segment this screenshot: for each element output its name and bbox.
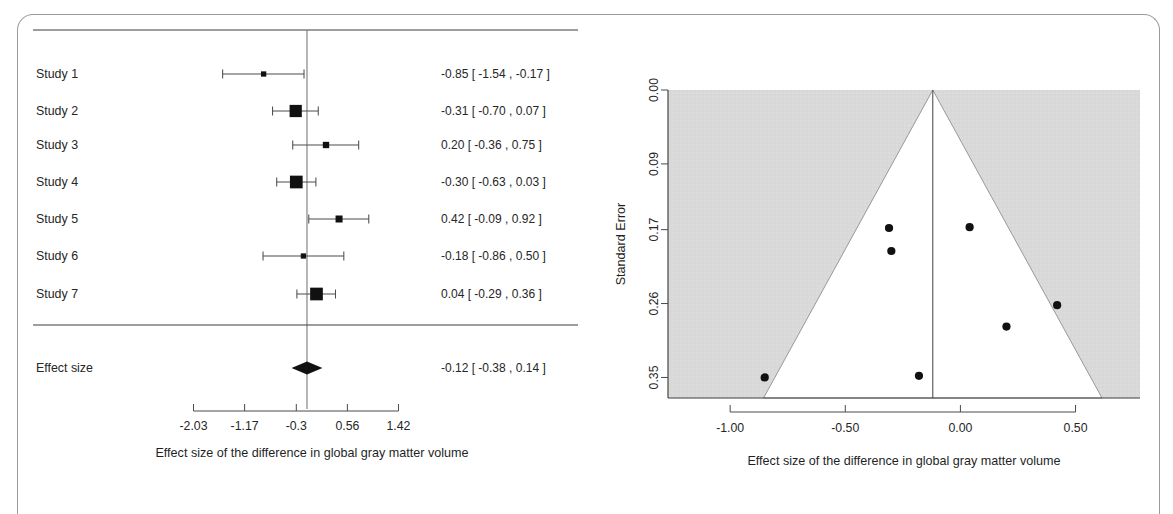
forest-row: Study 6-0.18 [ -0.86 , 0.50 ] [36,249,546,263]
forest-x-tick-label: -0.3 [286,419,307,433]
effect-size-marker [290,105,302,117]
funnel-y-tick-label: 0.17 [647,218,661,242]
effect-estimate-text: -0.85 [ -1.54 , -0.17 ] [441,67,550,81]
funnel-data-point [885,224,893,232]
effect-estimate-text: 0.04 [ -0.29 , 0.36 ] [441,287,542,301]
effect-size-marker [261,71,266,76]
forest-plot: Study 1-0.85 [ -1.54 , -0.17 ]Study 2-0.… [0,0,600,489]
funnel-y-tick-label: 0.00 [647,78,661,102]
effect-size-marker [323,142,329,148]
forest-row: Study 70.04 [ -0.29 , 0.36 ] [36,287,542,301]
forest-summary-row: Effect size-0.12 [ -0.38 , 0.14 ] [36,361,546,375]
effect-estimate-text: -0.18 [ -0.86 , 0.50 ] [441,249,546,263]
study-label: Study 7 [36,287,78,301]
forest-x-axis-title: Effect size of the difference in global … [155,446,468,460]
funnel-data-point [761,373,769,381]
funnel-x-axis-title: Effect size of the difference in global … [747,454,1060,468]
forest-row: Study 1-0.85 [ -1.54 , -0.17 ] [36,67,550,81]
forest-row: Study 30.20 [ -0.36 , 0.75 ] [36,138,542,152]
forest-x-tick-label: -2.03 [180,419,208,433]
funnel-plot-panel: 0.000.090.170.260.35Standard Error-1.00-… [600,0,1173,489]
funnel-plot: 0.000.090.170.260.35Standard Error-1.00-… [600,0,1173,489]
study-label: Study 6 [36,249,78,263]
funnel-data-point [915,372,923,380]
funnel-y-tick-label: 0.26 [647,291,661,315]
funnel-x-tick-label: 0.00 [948,421,972,435]
forest-x-tick-label: 0.56 [335,419,359,433]
effect-size-marker [310,288,323,301]
summary-label: Effect size [36,361,93,375]
effect-estimate-text: 0.20 [ -0.36 , 0.75 ] [441,138,542,152]
funnel-y-tick-label: 0.35 [647,365,661,389]
forest-x-tick-label: -1.17 [231,419,259,433]
effect-size-marker [290,176,303,189]
effect-size-marker [301,253,306,258]
study-label: Study 1 [36,67,78,81]
study-label: Study 4 [36,175,78,189]
funnel-data-point [887,247,895,255]
funnel-x-tick-label: -1.00 [716,421,744,435]
forest-x-tick-label: 1.42 [386,419,410,433]
forest-row: Study 4-0.30 [ -0.63 , 0.03 ] [36,175,546,189]
forest-row: Study 50.42 [ -0.09 , 0.92 ] [36,212,542,226]
funnel-x-tick-label: 0.50 [1064,421,1088,435]
effect-estimate-text: -0.30 [ -0.63 , 0.03 ] [441,175,546,189]
effect-estimate-text: -0.31 [ -0.70 , 0.07 ] [441,104,546,118]
funnel-y-tick-label: 0.09 [647,152,661,176]
summary-diamond [292,362,323,375]
effect-size-marker [336,216,343,223]
study-label: Study 3 [36,138,78,152]
forest-plot-panel: Study 1-0.85 [ -1.54 , -0.17 ]Study 2-0.… [0,0,600,489]
forest-row: Study 2-0.31 [ -0.70 , 0.07 ] [36,104,546,118]
effect-estimate-text: 0.42 [ -0.09 , 0.92 ] [441,212,542,226]
funnel-y-axis-title: Standard Error [614,203,628,286]
funnel-data-point [1053,301,1061,309]
summary-estimate-text: -0.12 [ -0.38 , 0.14 ] [441,361,546,375]
funnel-data-point [1002,322,1010,330]
study-label: Study 5 [36,212,78,226]
funnel-x-tick-label: -0.50 [831,421,859,435]
funnel-data-point [966,223,974,231]
study-label: Study 2 [36,104,78,118]
